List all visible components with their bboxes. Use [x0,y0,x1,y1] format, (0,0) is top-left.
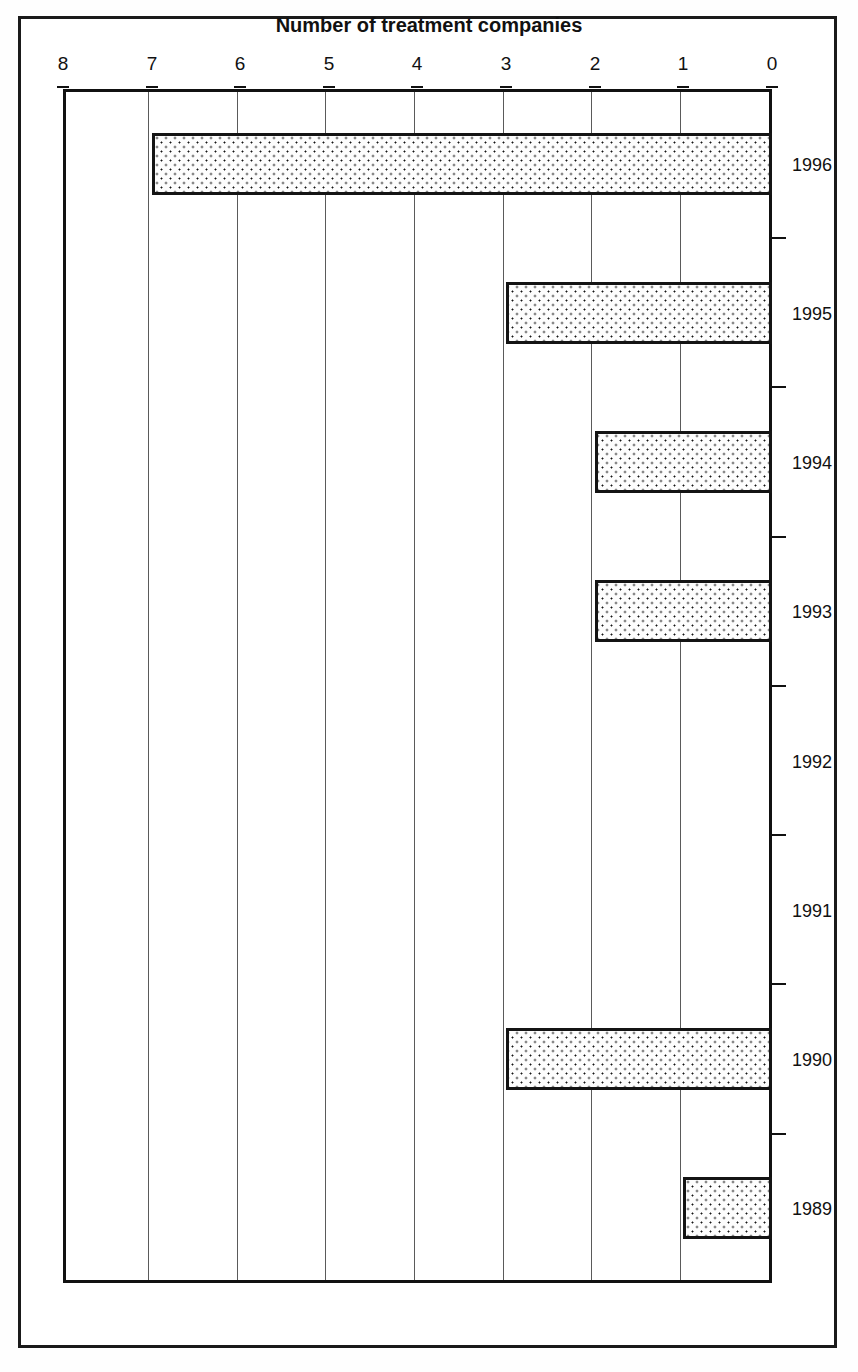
category-label: 1993 [784,602,840,623]
bar [506,282,772,344]
rotated-figure-content: Number of treatment companies 0123456781… [0,0,858,1372]
bar [595,580,772,642]
gridline [414,92,415,1280]
bar [152,133,772,195]
category-label: 1989 [784,1199,840,1220]
plot-area [63,89,772,1283]
value-axis-tick [323,86,335,88]
value-axis-tick [412,86,424,88]
category-label: 1991 [784,901,840,922]
category-label: 1994 [784,453,840,474]
value-axis-tick-label: 3 [486,53,526,75]
category-label: 1990 [784,1050,840,1071]
value-axis-tick [500,86,512,88]
gridline [325,92,326,1280]
category-label: 1992 [784,752,840,773]
gridline [591,92,592,1280]
value-axis-tick [146,86,158,88]
value-axis-tick [234,86,246,88]
value-axis-tick [57,86,69,88]
value-axis-tick-label: 8 [43,53,83,75]
category-axis-tick [772,984,786,986]
value-axis-tick-label: 7 [132,53,172,75]
category-axis-tick [772,834,786,836]
value-axis-tick-label: 4 [398,53,438,75]
value-axis-tick-label: 0 [752,53,792,75]
value-axis-tick [766,86,778,88]
category-axis-tick [772,685,786,687]
bar [595,431,772,493]
value-axis-tick-label: 6 [220,53,260,75]
value-axis-tick [677,86,689,88]
figure-page: Number of treatment companies 0123456781… [0,0,858,1372]
gridline [503,92,504,1280]
gridline [237,92,238,1280]
value-axis-tick-label: 2 [575,53,615,75]
value-axis-title: Number of treatment companies [0,14,858,37]
bar [506,1028,772,1090]
value-axis-tick [589,86,601,88]
category-label: 1996 [784,155,840,176]
bar [683,1177,772,1239]
category-axis-tick [772,387,786,389]
category-axis-tick [772,237,786,239]
gridline [680,92,681,1280]
gridline [148,92,149,1280]
value-axis-tick-label: 1 [663,53,703,75]
category-label: 1995 [784,304,840,325]
value-axis-tick-label: 5 [309,53,349,75]
category-axis-tick [772,536,786,538]
category-axis-tick [772,1133,786,1135]
